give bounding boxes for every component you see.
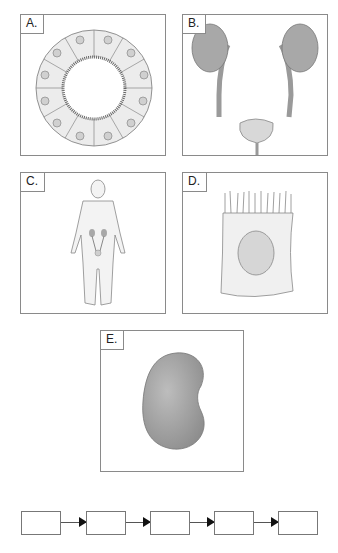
panel-d: D.	[182, 172, 328, 314]
human-body-illustration	[21, 173, 167, 315]
flow-arrow-3	[190, 522, 214, 523]
panel-label: E.	[100, 330, 124, 350]
panel-label: B.	[182, 14, 206, 34]
panel-c: C.	[20, 172, 166, 314]
epithelial-cell-illustration	[183, 173, 329, 315]
flow-box-2	[86, 511, 126, 535]
flow-box-1	[21, 511, 61, 535]
panel-label: C.	[20, 172, 45, 192]
panel-a: A.	[20, 14, 166, 156]
panel-e: E.	[100, 330, 244, 472]
kidney-illustration	[101, 331, 245, 473]
panel-b: B.	[182, 14, 328, 156]
tubule-cross-section-illustration	[21, 15, 167, 157]
flow-arrow-1	[61, 522, 86, 523]
urinary-tract-illustration	[183, 15, 329, 157]
flow-box-4	[214, 511, 254, 535]
flow-box-3	[150, 511, 190, 535]
panel-label: D.	[182, 172, 207, 192]
flow-arrow-2	[126, 522, 150, 523]
flow-arrow-4	[254, 522, 278, 523]
panel-label: A.	[20, 14, 44, 34]
flow-box-5	[278, 511, 318, 535]
